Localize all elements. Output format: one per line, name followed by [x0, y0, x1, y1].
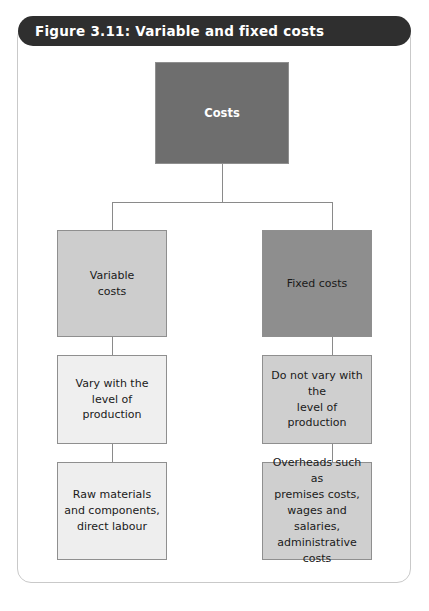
node-fixed-costs[interactable]: Fixed costs [262, 230, 372, 337]
node-fixed-examples-label: Overheads such as premises costs, wages … [263, 455, 371, 567]
node-fixed-examples[interactable]: Overheads such as premises costs, wages … [262, 462, 372, 560]
node-fixed-costs-label: Fixed costs [281, 276, 354, 292]
node-costs-label: Costs [198, 105, 246, 122]
node-variable-detail[interactable]: Vary with the level of production [57, 355, 167, 444]
diagram-canvas: Costs Variable costs Fixed costs Vary wi… [0, 0, 429, 611]
connector-fixed-to-detail [332, 337, 333, 355]
figure-title-bar: Figure 3.11: Variable and fixed costs [18, 16, 411, 46]
node-fixed-detail-label: Do not vary with the level of production [263, 368, 371, 432]
connector-variable-to-detail [112, 337, 113, 355]
node-variable-costs-label: Variable costs [84, 268, 141, 300]
node-variable-examples[interactable]: Raw materials and components, direct lab… [57, 462, 167, 560]
connector-to-fixed-costs [332, 202, 333, 230]
figure-title: Figure 3.11: Variable and fixed costs [18, 23, 324, 39]
node-costs[interactable]: Costs [155, 62, 289, 164]
node-variable-detail-label: Vary with the level of production [58, 376, 166, 424]
connector-variable-to-examples [112, 444, 113, 462]
connector-to-variable-costs [112, 202, 113, 230]
node-fixed-detail[interactable]: Do not vary with the level of production [262, 355, 372, 444]
node-variable-examples-label: Raw materials and components, direct lab… [58, 487, 166, 535]
connector-split-bar [112, 202, 333, 203]
connector-root-stem [222, 164, 223, 202]
node-variable-costs[interactable]: Variable costs [57, 230, 167, 337]
